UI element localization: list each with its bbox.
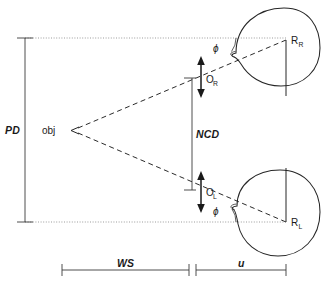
ws-dimension: WS bbox=[62, 257, 189, 276]
right-eye-globe bbox=[232, 8, 320, 86]
r-left-label: R bbox=[291, 217, 298, 228]
obj-point-marker bbox=[71, 127, 79, 134]
phi-bottom-label: ϕ bbox=[213, 206, 219, 217]
sight-lines bbox=[78, 40, 286, 222]
o-left-subscript: L bbox=[213, 193, 217, 200]
o-right-subscript: R bbox=[213, 80, 218, 87]
phi-top-label: ϕ bbox=[213, 43, 219, 54]
ncd-label: NCD bbox=[196, 128, 220, 140]
sight-line-left-eye bbox=[78, 133, 286, 222]
phi-top-angle: ϕ bbox=[213, 38, 236, 54]
o-right-arrow-head-down bbox=[197, 89, 205, 98]
pd-label: PD bbox=[5, 124, 20, 136]
u-label: u bbox=[238, 257, 245, 269]
u-dimension: u bbox=[196, 257, 286, 276]
phi-top-arc bbox=[232, 38, 237, 52]
right-eye: R R bbox=[231, 8, 320, 96]
pd-dimension: PD bbox=[5, 38, 33, 222]
binocular-convergence-diagram: PD obj NCD O R O L R bbox=[0, 0, 324, 286]
left-eye-globe bbox=[232, 170, 320, 256]
left-eye: R L bbox=[231, 168, 320, 256]
o-left-arrow-head-up bbox=[197, 171, 205, 180]
o-left-arrow-head-down bbox=[197, 204, 205, 213]
ws-label: WS bbox=[117, 257, 134, 269]
phi-bottom-arc bbox=[232, 209, 236, 222]
sight-line-right-eye bbox=[78, 40, 286, 128]
obj-label: obj bbox=[42, 125, 55, 136]
r-left-subscript: L bbox=[299, 223, 303, 230]
o-right-arrow-head-up bbox=[197, 56, 205, 65]
diagram-canvas: PD obj NCD O R O L R bbox=[0, 0, 324, 286]
r-right-subscript: R bbox=[299, 41, 304, 48]
o-right-offset-arrow: O R bbox=[197, 56, 218, 98]
r-right-label: R bbox=[291, 35, 298, 46]
